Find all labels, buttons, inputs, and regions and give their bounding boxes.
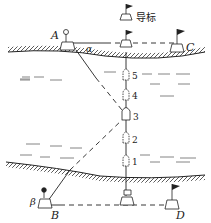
position-5: 5 <box>132 72 138 81</box>
beacon-top <box>120 4 133 20</box>
beacon-C <box>170 29 185 52</box>
label-beta: β <box>30 197 36 207</box>
water-ripples <box>20 72 196 162</box>
label-C: C <box>186 42 194 53</box>
position-4: 4 <box>132 92 138 101</box>
bottom-marker <box>120 190 134 205</box>
observer-A <box>60 30 75 51</box>
beacon-middle <box>120 30 133 47</box>
label-beacon: 导标 <box>136 13 156 23</box>
position-1: 1 <box>132 158 138 167</box>
position-2: 2 <box>132 136 138 145</box>
label-B: B <box>51 210 59 221</box>
position-3: 3 <box>133 113 139 122</box>
river-diagram <box>0 0 211 223</box>
bottom-riverbank <box>6 162 205 183</box>
label-alpha: α <box>86 45 92 54</box>
label-A: A <box>51 30 59 41</box>
label-D: D <box>176 210 185 221</box>
beacon-D <box>165 184 180 209</box>
